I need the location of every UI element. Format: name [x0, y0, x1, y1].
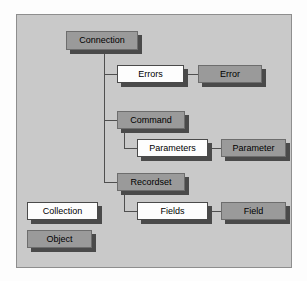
node-error[interactable]: Error — [198, 65, 262, 83]
legend-item-object: Object — [27, 230, 92, 248]
connector-connection-to-errors — [104, 74, 117, 75]
node-parameter[interactable]: Parameter — [221, 139, 286, 157]
node-fields-label: Fields — [160, 206, 184, 215]
node-parameters-label: Parameters — [149, 143, 196, 152]
connector-connection-to-recordset — [104, 182, 117, 183]
connector-command-trunk — [124, 132, 125, 149]
node-fields[interactable]: Fields — [137, 202, 208, 220]
connector-command-to-parameters — [124, 148, 137, 149]
node-field-label: Field — [244, 206, 264, 215]
node-connection[interactable]: Connection — [66, 31, 138, 50]
node-parameters[interactable]: Parameters — [137, 139, 208, 157]
connector-recordset-to-fields — [124, 211, 137, 212]
node-command[interactable]: Command — [117, 111, 185, 129]
node-parameter-label: Parameter — [232, 143, 274, 152]
legend-item-collection: Collection — [27, 202, 98, 220]
legend-collection-label: Collection — [43, 206, 83, 215]
node-command-label: Command — [130, 115, 172, 124]
node-connection-label: Connection — [79, 36, 125, 45]
node-errors[interactable]: Errors — [117, 65, 184, 83]
node-recordset-label: Recordset — [130, 177, 171, 186]
diagram-canvas: Connection Errors Error Command Paramete… — [0, 0, 307, 281]
connector-connection-trunk — [104, 45, 105, 182]
connector-connection-to-command — [104, 120, 117, 121]
node-error-label: Error — [220, 69, 240, 78]
node-field[interactable]: Field — [221, 202, 286, 220]
node-errors-label: Errors — [138, 69, 163, 78]
diagram-panel: Connection Errors Error Command Paramete… — [16, 14, 292, 268]
connector-recordset-trunk — [124, 194, 125, 212]
legend-object-label: Object — [46, 234, 72, 243]
node-recordset[interactable]: Recordset — [117, 173, 185, 191]
